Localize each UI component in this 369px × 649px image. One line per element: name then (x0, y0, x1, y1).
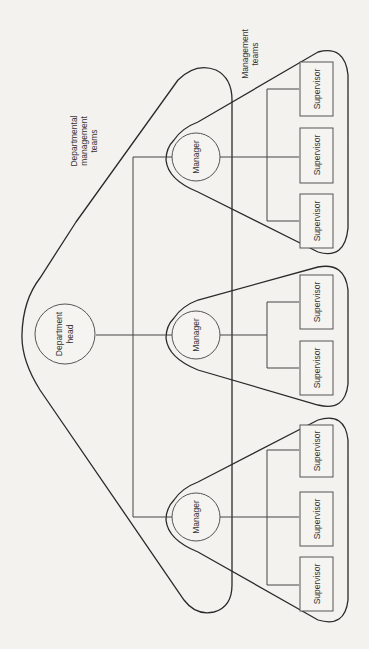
org-chart-diagram: Department head Manager Manager Manager … (0, 0, 369, 649)
department-head-node: Department head (35, 304, 95, 364)
supervisor-box: Supervisor (300, 425, 333, 477)
departmental-teams-label: Departmental management teams (69, 115, 99, 166)
manager-node-2: Manager (172, 311, 220, 359)
svg-text:Departmental: Departmental (69, 115, 79, 166)
svg-text:teams: teams (89, 129, 99, 152)
department-head-label-line1: Department (54, 311, 64, 356)
management-teams-label: Management teams (240, 29, 260, 79)
supervisor-box: Supervisor (300, 128, 333, 183)
svg-text:teams: teams (250, 42, 260, 65)
connector-branch-2 (267, 302, 299, 368)
manager-label: Manager (191, 140, 201, 174)
svg-text:Supervisor: Supervisor (312, 348, 322, 389)
svg-text:Supervisor: Supervisor (312, 431, 322, 472)
department-head-label-line2: head (65, 324, 75, 343)
supervisor-box: Supervisor (300, 341, 333, 395)
svg-text:Supervisor: Supervisor (312, 564, 322, 605)
svg-text:Management: Management (240, 29, 250, 79)
manager-label: Manager (191, 500, 201, 534)
supervisor-box: Supervisor (300, 194, 333, 248)
manager-label: Manager (191, 318, 201, 352)
supervisor-box: Supervisor (300, 275, 333, 329)
supervisor-box: Supervisor (300, 492, 333, 546)
svg-text:Supervisor: Supervisor (312, 499, 322, 540)
svg-text:Supervisor: Supervisor (312, 201, 322, 242)
manager-node-3: Manager (172, 493, 220, 541)
manager-node-1: Manager (172, 133, 220, 181)
svg-text:Supervisor: Supervisor (312, 282, 322, 323)
connector-branch-1 (267, 89, 299, 221)
supervisor-box: Supervisor (300, 62, 333, 116)
svg-text:Supervisor: Supervisor (312, 135, 322, 176)
svg-text:Supervisor: Supervisor (312, 69, 322, 110)
supervisor-box: Supervisor (300, 557, 333, 611)
svg-text:management: management (79, 116, 89, 166)
